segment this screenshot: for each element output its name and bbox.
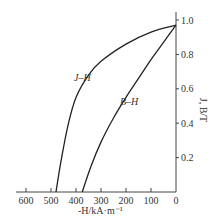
x-tick-label: 100 [144,195,159,206]
y-axis-label: J, B/T [198,98,209,122]
axes [16,12,176,192]
y-tick-label: 0.8 [181,49,194,60]
x-tick-label: 500 [44,195,59,206]
curves [56,25,176,192]
x-axis-label: -H/kA·m⁻¹ [78,205,123,216]
y-ticks: 0.20.40.60.81.0 [176,15,194,164]
x-ticks: 6005004003002001000 [19,188,179,206]
jh-curve-label: J–H [74,72,91,83]
y-tick-label: 1.0 [181,15,194,26]
y-tick-label: 0.2 [181,152,194,163]
y-tick-label: 0.4 [181,118,194,129]
demagnetization-chart: 6005004003002001000 0.20.40.60.81.0 -H/k… [0,0,217,223]
x-tick-label: 0 [174,195,179,206]
bh-curve-label: B–H [120,96,139,107]
x-tick-label: 600 [19,195,34,206]
bh-curve [82,25,176,192]
y-tick-label: 0.6 [181,83,194,94]
